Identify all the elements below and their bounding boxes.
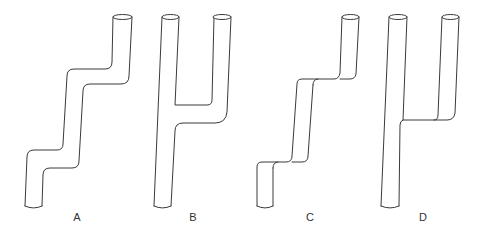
label-d: D xyxy=(419,212,427,223)
pipe-d-left-top-opening xyxy=(389,15,407,20)
pipe-b xyxy=(154,15,231,209)
label-a: A xyxy=(73,212,80,223)
pipe-c xyxy=(257,15,359,209)
pipe-b-right-top-opening xyxy=(213,15,231,20)
pipe-diagram: A B C D xyxy=(0,0,481,234)
diagram-canvas xyxy=(0,0,481,234)
pipe-b-left-top-opening xyxy=(162,15,179,20)
pipe-a-top-opening xyxy=(113,15,132,20)
pipe-d-right-top-opening xyxy=(442,15,459,20)
label-c: C xyxy=(306,212,314,223)
pipe-d xyxy=(381,15,459,209)
label-b: B xyxy=(189,212,196,223)
pipe-a xyxy=(25,15,132,209)
pipe-c-top-opening xyxy=(342,15,359,20)
